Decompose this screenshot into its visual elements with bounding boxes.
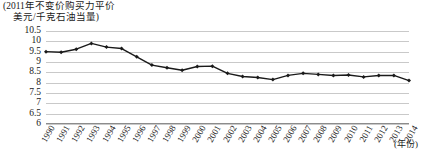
data-point-marker: [331, 73, 335, 77]
x-axis-tick-label: 2012: [373, 124, 390, 144]
x-axis-labels: 1990199119921993199419951996199719981999…: [46, 124, 409, 163]
chart-title-line-2: 美元/千克石油当量): [3, 12, 115, 23]
data-point-marker: [44, 50, 48, 54]
y-axis-tick-label: 8.5: [29, 68, 41, 78]
y-axis-tick-label: 6: [36, 119, 41, 129]
data-point-marker: [362, 75, 366, 79]
x-axis-tick-label: 2002: [222, 124, 239, 144]
y-axis-tick-label: 10.5: [24, 26, 41, 36]
x-axis-tick-label: 2006: [282, 124, 299, 144]
data-point-marker: [392, 73, 396, 77]
data-point-marker: [59, 50, 63, 54]
x-axis-unit-label: (年份): [394, 137, 418, 150]
x-axis-tick-label: 1998: [161, 124, 178, 144]
y-axis-tick-label: 7.5: [29, 88, 41, 98]
y-axis-tick-label: 10: [32, 37, 42, 47]
data-series-line: [46, 31, 409, 124]
x-axis-tick-label: 1994: [101, 124, 118, 144]
x-axis-tick-label: 1991: [55, 124, 72, 144]
data-point-marker: [180, 68, 184, 72]
x-axis-tick-label: 1995: [116, 124, 133, 144]
data-point-marker: [301, 71, 305, 75]
x-axis-tick-label: 2009: [327, 124, 344, 144]
x-axis-tick-label: 2008: [312, 124, 329, 144]
x-axis-tick-label: 1999: [176, 124, 193, 144]
x-axis-tick-label: 2005: [267, 124, 284, 144]
x-axis-tick-label: 1990: [40, 124, 57, 144]
x-axis-tick-label: 2001: [206, 124, 223, 144]
data-point-marker: [241, 74, 245, 78]
x-axis-tick-label: 2010: [343, 124, 360, 144]
data-point-marker: [105, 45, 109, 49]
y-axis-tick-label: 8: [36, 78, 41, 88]
x-axis-tick-label: 2011: [358, 124, 375, 144]
plot-area: [46, 31, 409, 124]
x-axis-tick-label: 2004: [252, 124, 269, 144]
x-axis-tick-label: 2007: [297, 124, 314, 144]
y-axis-tick-label: 9: [36, 57, 41, 67]
x-axis-tick-label: 2000: [191, 124, 208, 144]
chart-title: (2011年不变价购买力平价 美元/千克石油当量): [3, 1, 115, 23]
data-point-marker: [377, 73, 381, 77]
data-point-marker: [165, 66, 169, 70]
data-point-marker: [195, 65, 199, 69]
chart-root: (2011年不变价购买力平价 美元/千克石油当量) 10.5109.598.58…: [0, 0, 429, 163]
x-axis-tick-label: 1997: [146, 124, 163, 144]
y-axis-tick-label: 7: [36, 99, 41, 109]
y-axis-labels: 10.5109.598.587.576.56: [0, 31, 44, 124]
data-point-marker: [347, 73, 351, 77]
data-point-marker: [286, 73, 290, 77]
x-axis-tick-label: 1992: [70, 124, 87, 144]
data-point-marker: [407, 79, 411, 83]
data-point-marker: [316, 72, 320, 76]
data-point-marker: [271, 78, 275, 82]
y-axis-tick-label: 6.5: [29, 109, 41, 119]
data-point-marker: [74, 47, 78, 51]
chart-title-line-1: (2011年不变价购买力平价: [3, 1, 115, 12]
y-axis-tick-label: 9.5: [29, 47, 41, 57]
x-axis-tick-label: 1996: [131, 124, 148, 144]
x-axis-tick-label: 2003: [237, 124, 254, 144]
data-point-marker: [89, 41, 93, 45]
x-axis-tick-label: 1993: [85, 124, 102, 144]
data-point-marker: [256, 76, 260, 80]
